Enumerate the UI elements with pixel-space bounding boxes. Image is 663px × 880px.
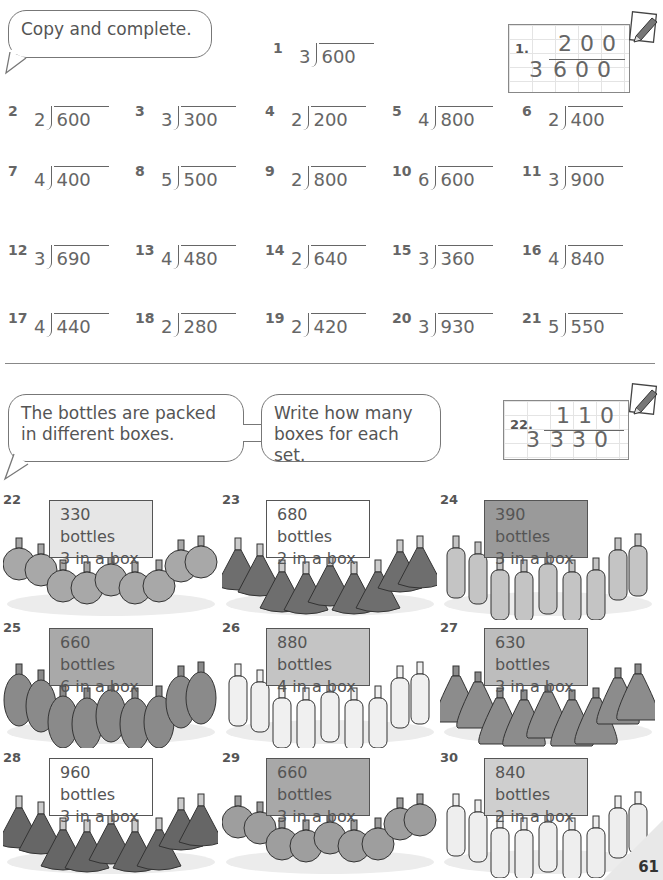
division-problem-9: 92800 [265, 163, 366, 190]
bottle-set-27: 27630 bottles3 in a box [440, 620, 655, 740]
example-quotient: 110 [556, 403, 622, 428]
divisor: 3 [548, 169, 559, 190]
division-bracket [46, 313, 52, 337]
instruction-bubble-left: The bottles are packed in different boxe… [8, 394, 244, 462]
set-number: 28 [3, 750, 21, 765]
example-dividend: 600 [553, 57, 619, 82]
problem-number: 19 [265, 310, 291, 326]
divisor: 5 [548, 316, 559, 337]
divisor: 4 [548, 248, 559, 269]
division-problem-21: 215550 [522, 310, 623, 337]
divisor: 2 [291, 109, 302, 130]
dividend: 280 [181, 313, 235, 337]
per-box: 3 in a box [495, 548, 577, 570]
division-problem-15: 153360 [392, 242, 493, 269]
dividend: 440 [54, 313, 108, 337]
instruction-bubble-right: Write how many boxes for each set. [261, 394, 441, 462]
problem-number: 7 [8, 163, 34, 179]
worked-example-1: 1. 200 3 600 [508, 24, 630, 93]
dividend: 930 [438, 313, 492, 337]
dividend: 600 [54, 106, 108, 130]
divisor: 3 [299, 46, 310, 67]
problem-number: 18 [135, 310, 161, 326]
division-bracket [303, 166, 309, 190]
bottle-count: 840 bottles [495, 762, 577, 806]
division-problem-18: 182280 [135, 310, 236, 337]
problem-number: 10 [392, 163, 418, 179]
dividend: 400 [568, 106, 622, 130]
division-bracket [303, 106, 309, 130]
per-box: 2 in a box [495, 806, 577, 828]
page-number: 61 [638, 858, 659, 876]
division-bracket [303, 313, 309, 337]
division-bracket [430, 245, 436, 269]
division-problem-8: 85500 [135, 163, 236, 190]
dividend: 600 [319, 43, 373, 67]
bottle-set-22: 22330 bottles3 in a box [3, 492, 218, 612]
bottle-count: 330 bottles [60, 504, 142, 548]
divisor: 2 [291, 248, 302, 269]
division-problem-2: 22600 [8, 103, 109, 130]
division-problem-7: 74400 [8, 163, 109, 190]
per-box: 3 in a box [495, 676, 577, 698]
division-problem-4: 42200 [265, 103, 366, 130]
divisor: 3 [418, 248, 429, 269]
division-bracket [311, 43, 317, 67]
divisor: 2 [548, 109, 559, 130]
divisor: 3 [161, 109, 172, 130]
bottle-count: 880 bottles [277, 632, 359, 676]
example-dividend: 330 [550, 427, 616, 452]
bottle-sign: 680 bottles2 in a box [266, 500, 370, 558]
divisor: 3 [34, 248, 45, 269]
instruction-text-right: Write how many boxes for each set. [274, 403, 413, 465]
division-problem-12: 123690 [8, 242, 109, 269]
problem-number: 13 [135, 242, 161, 258]
per-box: 3 in a box [277, 806, 359, 828]
bottle-count: 660 bottles [60, 632, 142, 676]
bottle-count: 630 bottles [495, 632, 577, 676]
divisor: 2 [291, 169, 302, 190]
speech-tail-icon [4, 50, 34, 76]
division-bracket [430, 106, 436, 130]
division-bracket [173, 245, 179, 269]
dividend: 400 [54, 166, 108, 190]
divisor: 3 [418, 316, 429, 337]
bottle-count: 680 bottles [277, 504, 359, 548]
problem-number: 6 [522, 103, 548, 119]
bottle-sign: 660 bottles3 in a box [266, 758, 370, 816]
problem-number: 21 [522, 310, 548, 326]
per-box: 2 in a box [277, 548, 359, 570]
division-bracket [173, 313, 179, 337]
divisor: 2 [291, 316, 302, 337]
pencil-icon [628, 382, 660, 418]
dividend: 800 [438, 106, 492, 130]
dividend: 690 [54, 245, 108, 269]
bottle-sign: 660 bottles6 in a box [49, 628, 153, 686]
bottle-count: 960 bottles [60, 762, 142, 806]
dividend: 480 [181, 245, 235, 269]
bottle-sign: 840 bottles2 in a box [484, 758, 588, 816]
problem-number: 12 [8, 242, 34, 258]
bottle-set-29: 29660 bottles3 in a box [222, 750, 437, 870]
set-number: 22 [3, 492, 21, 507]
problem-number: 20 [392, 310, 418, 326]
set-number: 24 [440, 492, 458, 507]
problem-number: 4 [265, 103, 291, 119]
per-box: 6 in a box [60, 676, 142, 698]
dividend: 900 [568, 166, 622, 190]
divisor: 4 [418, 109, 429, 130]
bubble-connector [243, 424, 263, 442]
divisor: 2 [161, 316, 172, 337]
divisor: 6 [418, 169, 429, 190]
instruction-bubble-copy: Copy and complete. [8, 10, 212, 58]
divisor: 2 [34, 109, 45, 130]
problem-number: 14 [265, 242, 291, 258]
problem-number: 9 [265, 163, 291, 179]
per-box: 4 in a box [277, 676, 359, 698]
division-bracket [430, 166, 436, 190]
division-problem-10: 106600 [392, 163, 493, 190]
dividend: 420 [311, 313, 365, 337]
bottle-sign: 330 bottles3 in a box [49, 500, 153, 558]
problem-number: 15 [392, 242, 418, 258]
example-label: 1. [515, 41, 529, 56]
